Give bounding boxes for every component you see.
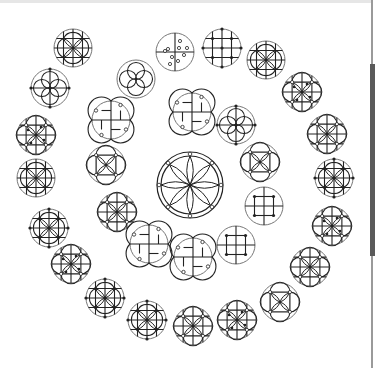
emblem-petal-grid-dots [84, 277, 125, 318]
emblem-quatrefoil-dots [29, 67, 70, 108]
emblem-square-knot [260, 282, 300, 322]
emblem-knot-petal [290, 247, 330, 287]
emblem-quatrefoil-dots [215, 104, 256, 145]
emblem-square-knot [240, 142, 280, 182]
central-rosette-emblem [157, 152, 223, 218]
emblem-petal-grid-dots [28, 207, 69, 248]
emblem-petal-grid-dots [126, 299, 167, 340]
emblem-knot-petal [173, 306, 212, 346]
emblem-petal-grid-dots [313, 157, 354, 198]
emblem-figure [0, 0, 376, 368]
emblem-petal-grid [54, 29, 92, 67]
emblem-grid-square [217, 226, 255, 264]
emblem-swirl [170, 234, 216, 280]
emblem-swirl [88, 97, 134, 143]
emblem-petal-grid [17, 159, 55, 197]
emblem-knot-petal [97, 192, 137, 232]
emblem-knot-dense [312, 206, 352, 246]
emblem-quatrefoil [117, 60, 155, 98]
emblem-petal-grid [247, 41, 285, 79]
emblem-swirl [126, 221, 172, 267]
emblem-knot-dense [282, 72, 322, 112]
emblem-square-knot [86, 145, 126, 185]
emblem-knot-dense [16, 115, 56, 155]
emblem-grid-square [245, 187, 283, 225]
emblem-dots-cross [156, 33, 194, 71]
emblem-knot-dense [217, 300, 257, 340]
emblem-knot-dense [51, 244, 91, 284]
scrollbar-thumb[interactable] [370, 64, 375, 256]
emblem-swirl [169, 89, 215, 135]
emblem-knot-petal [307, 114, 347, 154]
emblem-grid-dots [201, 27, 242, 68]
